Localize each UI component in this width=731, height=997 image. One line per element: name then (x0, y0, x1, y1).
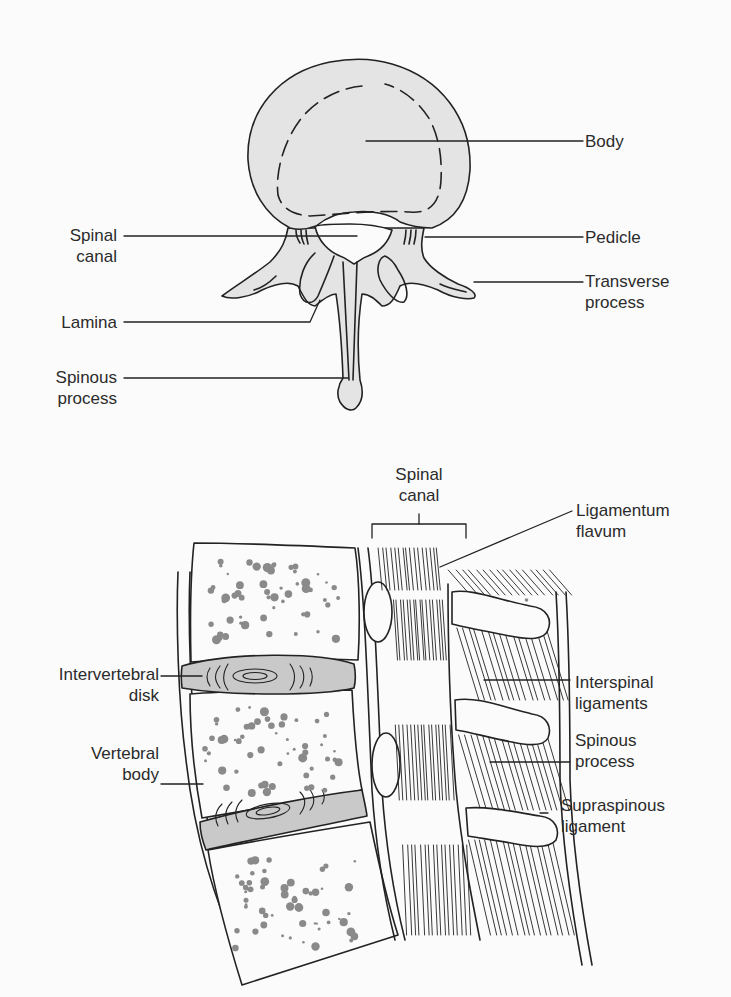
ligament-fiber (426, 600, 430, 660)
ligament-fiber (415, 845, 419, 935)
trabecula-dot (281, 891, 289, 899)
trabecula-dot (295, 718, 299, 722)
ligament-fiber (516, 570, 538, 595)
label-text: Lamina (61, 312, 117, 333)
trabecula-dot (312, 889, 319, 896)
trabecula-dot (316, 630, 319, 633)
ligament-fiber (479, 840, 501, 935)
trabecula-dot (215, 722, 218, 725)
trabecula-dot (296, 582, 300, 586)
ligament-fiber (433, 845, 437, 935)
trabecula-dot (260, 580, 268, 588)
label-spinous-process-side: Spinous process (575, 730, 636, 772)
ligament-fiber (485, 840, 507, 935)
ligament-fiber (536, 570, 558, 595)
vertebral-body-3 (208, 822, 398, 985)
ligament-fiber (445, 845, 449, 935)
label-ligamentum-flavum: Ligamentum flavum (576, 500, 670, 542)
ligament-fiber (437, 845, 441, 935)
trabecula-dot (208, 622, 213, 627)
trabecula-dot (310, 767, 314, 771)
trabecula-dot (333, 750, 336, 753)
trabecula-dot (299, 920, 306, 927)
trabecula-dot (208, 587, 214, 593)
trabecula-dot (270, 593, 278, 601)
ligament-fiber (511, 735, 533, 810)
trabecula-dot (218, 637, 222, 641)
trabecula-dot (286, 902, 294, 910)
ligament-fiber (550, 570, 572, 595)
label-text: body (91, 764, 159, 785)
trabecula-dot (265, 716, 271, 722)
trabecula-dot (336, 596, 340, 600)
trabecula-dot (207, 751, 211, 755)
trabecula-dot (332, 635, 340, 643)
ligament-fiber (398, 548, 402, 590)
trabecula-dot (302, 941, 305, 944)
label-spinous-process-top: Spinous process (56, 367, 117, 409)
trabecula-dot (525, 598, 529, 602)
ligament-fiber (453, 845, 457, 935)
label-text: Supraspinous (561, 795, 665, 816)
trabecula-dot (236, 707, 241, 712)
trabecula-dot (232, 945, 239, 952)
trabecula-dot (275, 732, 278, 735)
label-text: Body (585, 131, 624, 152)
trabecula-dot (303, 773, 309, 779)
trabecula-dot (267, 595, 271, 599)
trabecula-dot (287, 752, 290, 755)
ligament-fiber (471, 735, 493, 810)
trabecula-dot (302, 584, 311, 593)
label-text: Spinous (56, 367, 117, 388)
trabecula-dot (267, 567, 275, 575)
label-text: Pedicle (585, 227, 641, 248)
trabecula-dot (266, 631, 272, 637)
label-intervertebral-disk: Intervertebral disk (59, 664, 159, 706)
trabecula-dot (260, 877, 269, 886)
ligament-fiber (483, 570, 505, 595)
ligament-fiber (414, 725, 418, 800)
spinous-process-2 (455, 699, 549, 744)
trabecula-dot (239, 880, 245, 886)
ligament-fiber (535, 735, 557, 810)
label-text: canal (70, 246, 117, 267)
trabecula-dot (325, 602, 330, 607)
side-vertebra-view (177, 543, 592, 985)
trabecula-dot (218, 559, 224, 565)
label-spinal-canal-side: Spinal canal (384, 464, 454, 506)
ligament-fiber (420, 600, 424, 660)
trabecula-dot (303, 888, 310, 895)
ligament-fiber (442, 845, 446, 935)
ligament-fiber (487, 628, 509, 700)
label-text: ligament (561, 816, 665, 837)
trabecula-dot (235, 590, 242, 597)
trabecula-dot (293, 748, 296, 751)
trabecula-dot (293, 570, 297, 574)
trabecula-dot (236, 581, 244, 589)
trabecula-dot (281, 600, 285, 604)
ligament-fiber (458, 845, 462, 935)
label-text: process (56, 388, 117, 409)
trabecula-dot (292, 897, 298, 903)
trabecula-dot (219, 564, 223, 568)
ligament-fiber (395, 548, 399, 590)
ligament-fiber (477, 735, 499, 810)
trabecula-dot (318, 927, 321, 930)
ligament-fiber (386, 548, 390, 590)
trabecula-dot (277, 761, 282, 766)
label-pedicle: Pedicle (585, 227, 641, 248)
ligament-fiber (541, 840, 563, 935)
trabecula-dot (236, 738, 242, 744)
trabecula-dot (285, 590, 293, 598)
label-vertebral-body: Vertebral body (91, 743, 159, 785)
ligament-fiber (552, 840, 574, 935)
ligament-fiber (498, 628, 520, 700)
trabecula-dot (250, 871, 255, 876)
trabecula-dot (235, 874, 239, 878)
trabecula-dot (234, 739, 237, 742)
trabecula-dot (314, 922, 316, 924)
ligament-fiber (422, 548, 426, 590)
trabecula-dot (345, 883, 353, 891)
label-text: flavum (576, 521, 670, 542)
trabecula-dot (333, 758, 338, 763)
